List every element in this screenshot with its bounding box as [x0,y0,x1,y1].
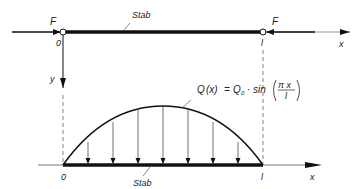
end-label-top: l [261,38,264,48]
stab-leader-bottom [143,167,150,176]
formula-subscript-0: 0 [241,90,245,96]
x-axis-label-top: x [338,39,344,49]
formula-sin: sin [253,84,266,95]
formula-x-arg: (x) [206,84,218,95]
formula-dot: · [247,84,250,95]
formula-paren-right [297,80,300,101]
formula-Q0: Q [233,84,241,95]
hinge-left-icon [60,29,66,35]
y-axis-arrowhead-icon [60,78,66,88]
formula-denominator: l [285,91,288,101]
formula-equals: = [224,84,230,95]
x-axis-bottom-arrowhead-icon [305,162,322,168]
hinge-right-icon [260,29,266,35]
load-distribution: 0 l Stab x [38,100,322,188]
x-axis-top-arrowhead-icon [340,29,350,35]
force-label-right: F [272,16,279,27]
origin-label-bottom: 0 [61,172,66,182]
force-label-left: F [50,16,57,27]
load-arrows [88,106,238,163]
x-axis-label-bottom: x [309,172,315,182]
end-label-bottom: l [261,172,264,182]
rod-label-top: Stab [132,10,151,20]
formula-paren-left [274,80,277,101]
buckling-rod-diagram: F F 0 l Stab x y 0 l Stab [0,0,363,189]
formula-leader [182,100,191,108]
origin-label-top: 0 [56,38,61,48]
load-formula: Q (x) = Q 0 · sin π x l [197,80,300,101]
rod-label-bottom: Stab [133,178,152,188]
formula-numerator: π x [278,80,292,90]
stab-leader-top [123,23,130,31]
y-axis-label: y [49,74,55,84]
top-rod-system: F F 0 l Stab x y [12,10,350,88]
formula-Q: Q [197,84,205,95]
